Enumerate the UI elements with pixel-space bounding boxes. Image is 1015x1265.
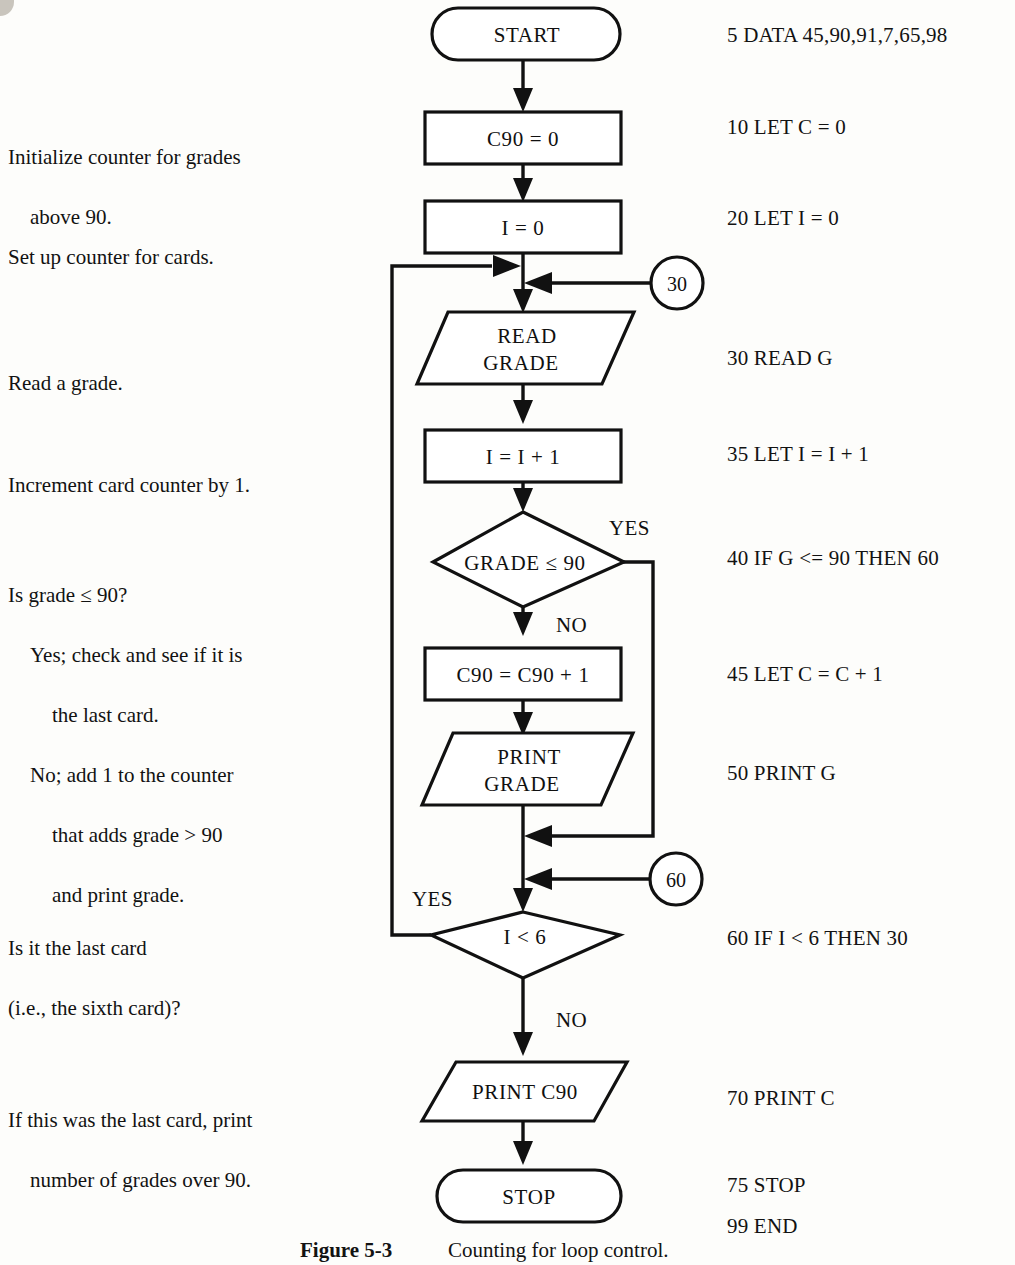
flow-node-stop[interactable]: STOP xyxy=(437,1170,621,1222)
arrowhead-icon xyxy=(513,612,533,636)
arrowhead-icon xyxy=(513,488,533,512)
flow-node-init-i[interactable]: I = 0 xyxy=(425,201,621,253)
flow-node-print-grade-label-2: GRADE xyxy=(484,772,559,796)
branch-label-loop-test-no: NO xyxy=(556,1008,587,1032)
flow-connector-30-label: 30 xyxy=(667,273,687,295)
flow-node-read-grade-label-1: READ xyxy=(497,324,557,348)
flow-node-init-c90[interactable]: C90 = 0 xyxy=(425,112,621,164)
arrowhead-icon xyxy=(524,825,552,847)
flow-node-grade-test-label: GRADE ≤ 90 xyxy=(464,551,585,575)
branch-label-grade-test-yes: YES xyxy=(609,516,650,540)
flow-node-print-c90-label: PRINT C90 xyxy=(472,1080,578,1104)
figure-caption-text: Counting for loop control. xyxy=(448,1238,668,1263)
flow-node-start-label: START xyxy=(494,23,561,47)
flow-node-incr-c90-label: C90 = C90 + 1 xyxy=(456,663,589,687)
arrowhead-icon xyxy=(493,255,521,277)
branch-label-grade-test-no: NO xyxy=(556,613,587,637)
flow-node-incr-c90[interactable]: C90 = C90 + 1 xyxy=(425,648,621,700)
figure-page: Initialize counter for grades above 90. … xyxy=(0,0,1015,1265)
arrowhead-icon xyxy=(513,88,533,112)
flow-connector-60[interactable]: 60 xyxy=(650,853,702,905)
flow-connector-30[interactable]: 30 xyxy=(651,257,703,309)
flow-node-init-i-label: I = 0 xyxy=(502,216,545,240)
flow-node-start[interactable]: START xyxy=(432,8,620,60)
arrowhead-icon xyxy=(513,178,533,202)
flow-node-read-grade[interactable]: READ GRADE xyxy=(417,312,634,384)
flow-node-stop-label: STOP xyxy=(502,1185,555,1209)
flow-node-grade-test[interactable]: GRADE ≤ 90 xyxy=(433,512,624,607)
flow-node-loop-test-label: I < 6 xyxy=(504,925,547,949)
flow-connector-60-label: 60 xyxy=(666,869,686,891)
flow-node-init-c90-label: C90 = 0 xyxy=(487,127,559,151)
branch-label-loop-test-yes: YES xyxy=(412,887,453,911)
arrowhead-icon xyxy=(513,888,533,912)
arrowhead-icon xyxy=(513,289,533,313)
flow-node-read-grade-label-2: GRADE xyxy=(483,351,558,375)
arrowhead-icon xyxy=(513,400,533,424)
flow-node-incr-i[interactable]: I = I + 1 xyxy=(425,430,621,482)
flow-node-print-grade[interactable]: PRINT GRADE xyxy=(422,733,633,805)
arrowhead-icon xyxy=(524,868,552,890)
flowchart-diagram: START C90 = 0 I = 0 READ GRADE I = I + 1… xyxy=(0,0,1015,1265)
arrowhead-icon xyxy=(513,1141,533,1165)
flow-node-print-grade-label-1: PRINT xyxy=(497,745,561,769)
flow-node-print-c90[interactable]: PRINT C90 xyxy=(422,1062,627,1121)
flow-node-incr-i-label: I = I + 1 xyxy=(486,445,561,469)
arrowhead-icon xyxy=(513,1032,533,1056)
figure-caption-label: Figure 5-3 xyxy=(300,1238,392,1263)
flow-node-loop-test[interactable]: I < 6 xyxy=(431,912,620,978)
